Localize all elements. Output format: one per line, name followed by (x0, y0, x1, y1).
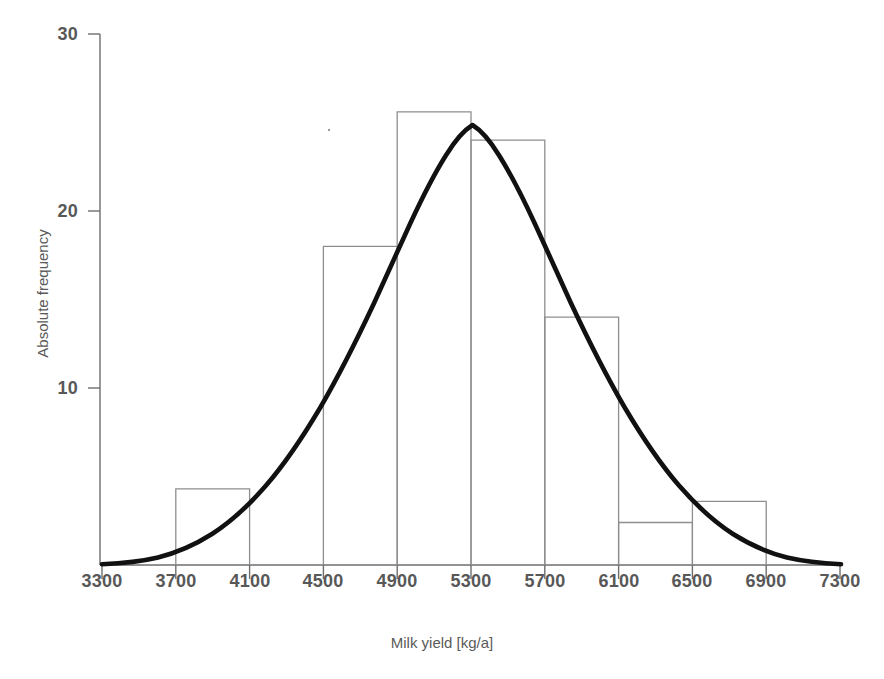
x-tick-label-3300: 3300 (82, 571, 123, 592)
x-tick-label-5700: 5700 (525, 571, 566, 592)
bar-4500-4900 (323, 246, 397, 565)
chart-figure: 30 20 10 3300 3700 4100 4500 4900 5300 5… (0, 0, 884, 679)
y-axis-title: Absolute frequency (34, 144, 51, 444)
x-tick-label-6900: 6900 (746, 571, 787, 592)
bar-5300-5700 (471, 140, 545, 565)
x-tick-label-5300: 5300 (451, 571, 492, 592)
y-axis-ticks (88, 34, 100, 388)
bar-3700-4100 (176, 489, 250, 565)
y-tick-label-30: 30 (18, 24, 78, 45)
x-axis-title: Milk yield [kg/a] (0, 634, 884, 651)
bar-5700-6100 (545, 317, 619, 565)
x-tick-label-7300: 7300 (820, 571, 861, 592)
bar-6100-6500 (619, 523, 693, 566)
x-tick-label-4500: 4500 (303, 571, 344, 592)
x-tick-label-4100: 4100 (230, 571, 271, 592)
scan-speck (328, 129, 330, 131)
x-tick-label-4900: 4900 (377, 571, 418, 592)
x-tick-label-6100: 6100 (599, 571, 640, 592)
histogram-bars (176, 112, 766, 565)
x-tick-label-3700: 3700 (156, 571, 197, 592)
x-tick-label-6500: 6500 (672, 571, 713, 592)
